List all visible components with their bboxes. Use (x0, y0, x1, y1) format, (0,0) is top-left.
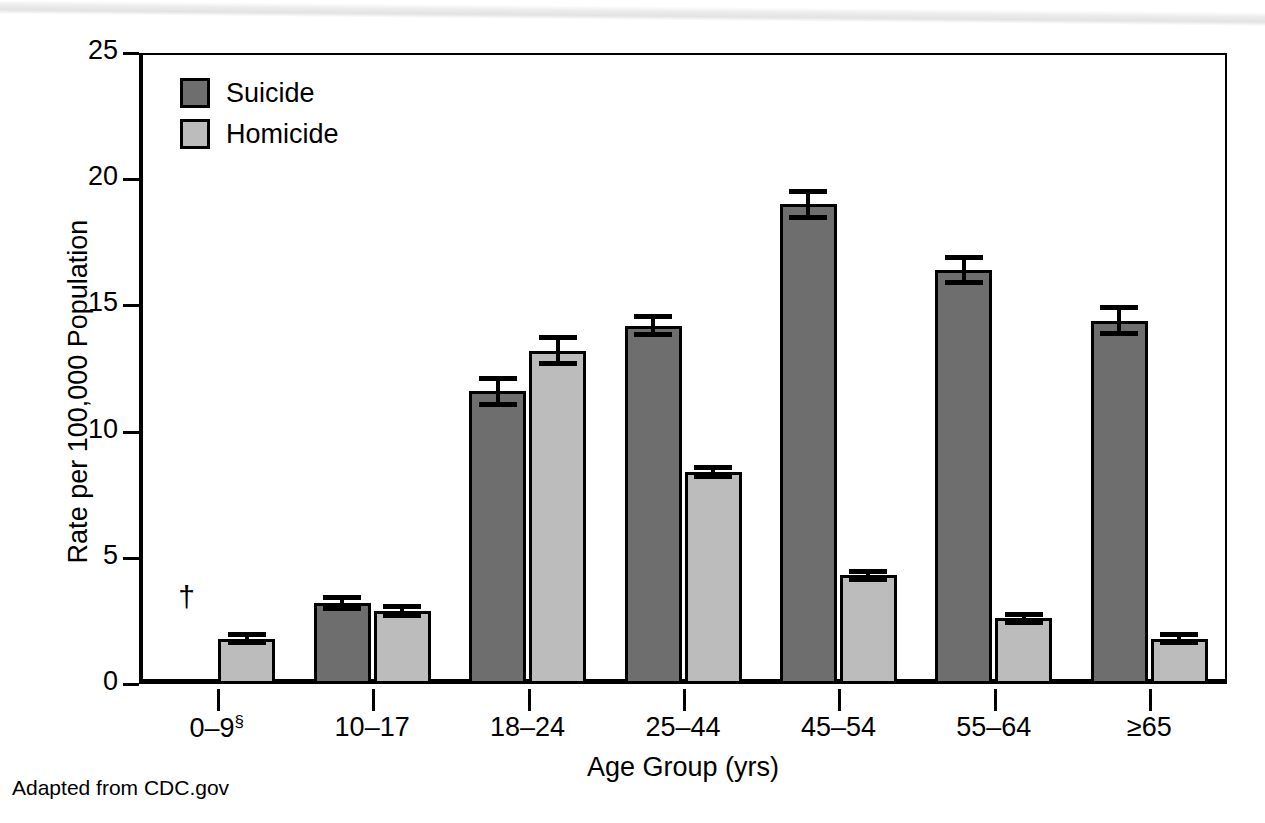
error-bar-cap-upper (1160, 632, 1198, 637)
error-bar-cap-upper (849, 569, 887, 574)
error-bar-cap-upper (945, 255, 983, 260)
bar-suicide (314, 603, 371, 684)
bar-homicide (529, 351, 586, 684)
error-bar-cap-upper (323, 595, 361, 600)
error-bar-cap-upper (694, 465, 732, 470)
bar-homicide (218, 639, 275, 684)
bar-homicide (374, 611, 431, 684)
x-tick-mark (683, 689, 686, 711)
x-tick-label: 25–44 (645, 712, 720, 743)
x-tick-label: 55–64 (956, 712, 1031, 743)
x-axis-label: Age Group (yrs) (139, 752, 1227, 783)
x-tick-label: 18–24 (490, 712, 565, 743)
y-tick-label: 15 (48, 287, 118, 318)
bar-homicide (1151, 639, 1208, 684)
bar-suicide (780, 204, 837, 684)
bar-suicide (1091, 321, 1148, 684)
bar-chart-figure: Rate per 100,000 Population 0510152025 †… (0, 0, 1265, 823)
y-tick-mark (123, 52, 139, 55)
x-tick-label: 45–54 (801, 712, 876, 743)
error-bar-cap-upper (539, 335, 577, 340)
x-tick-mark (372, 689, 375, 711)
y-tick-label: 25 (48, 35, 118, 66)
bar-homicide (840, 575, 897, 684)
y-axis-label: Rate per 100,000 Population (63, 112, 94, 672)
bar-suicide (625, 326, 682, 684)
bar-homicide (995, 618, 1052, 684)
x-tick-label: 0–9§ (189, 712, 244, 744)
source-caption: Adapted from CDC.gov (12, 776, 229, 800)
legend-label-suicide: Suicide (226, 78, 315, 109)
error-bar-cap-upper (228, 632, 266, 637)
y-tick-label: 20 (48, 161, 118, 192)
chart-legend: Suicide Homicide (180, 76, 339, 158)
error-bar-cap-upper (789, 189, 827, 194)
bar-suicide (469, 391, 526, 684)
y-tick-label: 10 (48, 414, 118, 445)
error-bar-cap-upper (634, 314, 672, 319)
x-tick-mark (528, 689, 531, 711)
y-tick-mark (123, 178, 139, 181)
error-bar-cap-upper (1100, 305, 1138, 310)
error-bar-cap-upper (383, 604, 421, 609)
y-tick-label: 5 (48, 540, 118, 571)
square-swatch-icon (180, 78, 210, 108)
x-tick-mark (217, 689, 220, 711)
y-tick-mark (123, 683, 139, 686)
x-tick-mark (994, 689, 997, 711)
legend-item-suicide: Suicide (180, 76, 339, 110)
y-tick-label: 0 (48, 666, 118, 697)
x-tick-label: 10–17 (335, 712, 410, 743)
legend-label-homicide: Homicide (226, 119, 339, 150)
legend-item-homicide: Homicide (180, 117, 339, 151)
x-tick-mark (838, 689, 841, 711)
bar-suicide (935, 270, 992, 684)
y-tick-mark (123, 431, 139, 434)
bar-homicide (685, 472, 742, 684)
error-bar-cap-upper (1005, 612, 1043, 617)
x-tick-mark (1149, 689, 1152, 711)
y-tick-mark (123, 304, 139, 307)
error-bar-cap-upper (479, 376, 517, 381)
x-tick-label: ≥65 (1127, 712, 1172, 743)
missing-data-dagger: † (178, 582, 195, 612)
y-tick-mark (123, 557, 139, 560)
square-swatch-icon (180, 119, 210, 149)
